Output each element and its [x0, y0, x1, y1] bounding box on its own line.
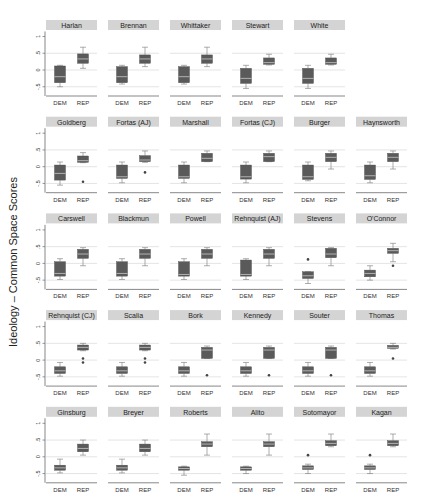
x-tick-label: DEM [239, 293, 252, 299]
x-tick-label: DEM [115, 100, 128, 106]
x-tick-label: REP [201, 293, 213, 299]
x-tick-label: DEM [301, 390, 314, 396]
panel-title: Sotomayor [303, 409, 338, 417]
y-tick-label: 0 [35, 68, 41, 71]
x-tick-label: REP [263, 390, 275, 396]
box-dem [179, 162, 190, 183]
panel-alito: AlitoDEMREP [232, 407, 283, 493]
x-tick-label: REP [139, 390, 151, 396]
panel-kennedy: KennedyDEMREP [232, 310, 283, 396]
panel-title: O'Connor [367, 215, 397, 222]
x-tick-label: REP [387, 487, 399, 493]
x-tick-label: REP [139, 293, 151, 299]
outlier-point [369, 454, 372, 457]
outlier-point [144, 171, 147, 174]
box-dem [303, 162, 314, 181]
small-multiples-grid: Harlan1.50-.5DEMREPBrennanDEMREPWhittake… [0, 0, 422, 502]
outlier-point [206, 374, 209, 377]
panel-o-connor: O'ConnorDEMREP [356, 213, 407, 299]
x-tick-label: REP [325, 293, 337, 299]
panel-rehnquist-cj: Rehnquist (CJ)1.50-.5DEMREP [35, 310, 97, 396]
panel-title: Stevens [307, 215, 333, 222]
box-rep [326, 151, 337, 169]
box-rep [326, 54, 337, 65]
panel-title: Fortas (CJ) [240, 119, 275, 127]
box-dem [179, 65, 190, 84]
panel-powell: PowellDEMREP [170, 213, 221, 299]
box-rep [388, 151, 399, 169]
panel-breyer: BreyerDEMREP [108, 407, 159, 493]
box-rep [202, 434, 213, 455]
panel-fortas-cj: Fortas (CJ)DEMREP [232, 117, 283, 203]
box-rep [140, 440, 151, 455]
outlier-point [307, 258, 310, 261]
y-tick-label: 0 [35, 262, 41, 265]
box-rep [326, 346, 337, 376]
x-tick-label: REP [263, 293, 275, 299]
panel-title: Scalia [124, 312, 143, 319]
outlier-point [82, 357, 85, 360]
x-tick-label: REP [201, 390, 213, 396]
x-tick-label: REP [325, 197, 337, 203]
y-tick-label: 1 [35, 325, 41, 328]
y-tick-label: 1 [35, 132, 41, 135]
x-tick-label: DEM [363, 487, 376, 493]
x-tick-label: REP [387, 390, 399, 396]
panel-title: Goldberg [57, 119, 86, 127]
box-rep [78, 153, 89, 183]
y-tick-label: 1 [35, 228, 41, 231]
box-rep [140, 47, 151, 66]
y-tick-label: 0 [35, 359, 41, 362]
box-rep [202, 151, 213, 162]
y-tick-label: 0 [35, 455, 41, 458]
x-tick-label: DEM [301, 487, 314, 493]
outlier-point [144, 357, 147, 360]
box-dem [241, 466, 252, 473]
panel-stevens: StevensDEMREP [294, 213, 345, 299]
panel-whittaker: WhittakerDEMREP [170, 20, 221, 106]
x-tick-label: DEM [115, 293, 128, 299]
x-tick-label: DEM [177, 293, 190, 299]
box-dem [241, 362, 252, 376]
x-tick-label: DEM [115, 390, 128, 396]
box-rep [202, 47, 213, 66]
box-dem [179, 362, 190, 376]
box-rep [264, 54, 275, 65]
outlier-point [82, 361, 85, 364]
x-tick-label: DEM [53, 390, 66, 396]
outlier-point [330, 374, 333, 377]
box-rep [78, 248, 89, 266]
outlier-point [392, 357, 395, 360]
panel-goldberg: Goldberg1.50-.5DEMREP [35, 117, 97, 203]
panel-title: Souter [309, 312, 330, 319]
box-dem [365, 162, 376, 183]
panel-thomas: ThomasDEMREP [356, 310, 407, 396]
box-rep [140, 343, 151, 363]
panel-fortas-aj: Fortas (AJ)DEMREP [108, 117, 159, 203]
y-tick-label: 0 [35, 165, 41, 168]
x-tick-label: REP [77, 487, 89, 493]
box-rep [202, 248, 213, 266]
panel-brennan: BrennanDEMREP [108, 20, 159, 106]
x-tick-label: REP [139, 487, 151, 493]
y-tick-label: .5 [35, 341, 41, 346]
x-tick-label: REP [201, 487, 213, 493]
box-rep [78, 343, 89, 363]
panel-title: Brennan [120, 22, 147, 29]
x-tick-label: DEM [239, 487, 252, 493]
panel-haynsworth: HaynsworthDEMREP [356, 117, 407, 203]
box-rep [264, 248, 275, 266]
panel-title: Rehnquist (AJ) [234, 215, 280, 223]
panel-rehnquist-aj: Rehnquist (AJ)DEMREP [232, 213, 283, 299]
x-tick-label: DEM [115, 197, 128, 203]
x-tick-label: DEM [239, 100, 252, 106]
x-tick-label: REP [77, 293, 89, 299]
y-tick-label: -.5 [35, 374, 41, 380]
box-dem [55, 65, 66, 86]
y-tick-label: .5 [35, 51, 41, 56]
panel-title: Stewart [246, 22, 270, 29]
x-tick-label: DEM [239, 197, 252, 203]
y-tick-label: -.5 [35, 470, 41, 476]
box-dem [117, 459, 128, 473]
box-dem [303, 258, 314, 283]
